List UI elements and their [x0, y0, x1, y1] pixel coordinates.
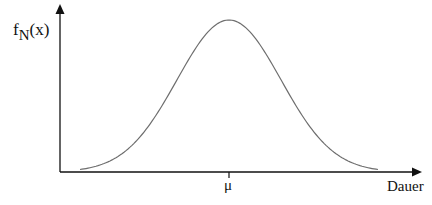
normal-distribution-diagram: [0, 0, 432, 205]
y-axis-label: fN(x): [13, 20, 49, 40]
x-axis-label: Dauer: [387, 178, 424, 195]
mu-label: μ: [224, 177, 232, 194]
bell-curve: [80, 20, 378, 169]
y-axis-arrow-icon: [56, 4, 65, 14]
x-axis-arrow-icon: [412, 168, 422, 177]
